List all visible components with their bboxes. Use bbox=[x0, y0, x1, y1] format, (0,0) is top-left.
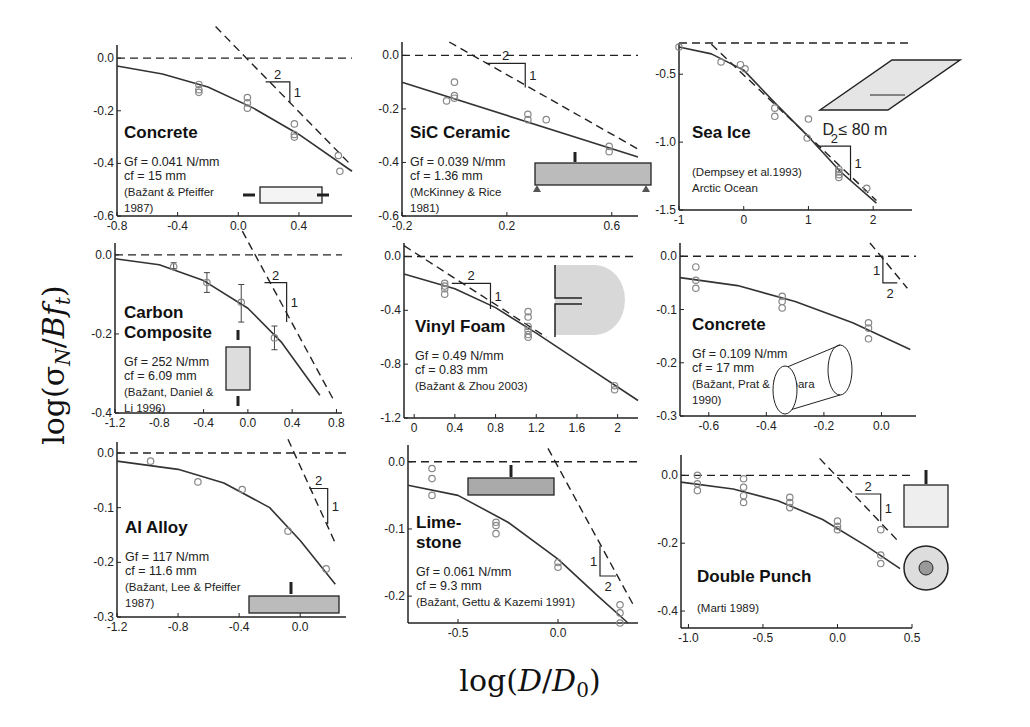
source-citation: (Bažant, Lee & Pfeiffer bbox=[125, 581, 241, 593]
data-point bbox=[693, 285, 699, 291]
material-title: SiC Ceramic bbox=[410, 123, 510, 142]
material-title: Sea Ice bbox=[692, 123, 751, 142]
x-tick-label: -0.4 bbox=[756, 419, 777, 433]
x-tick-label: 0.5 bbox=[904, 631, 921, 645]
source-citation: (Dempsey et al.1993) bbox=[692, 166, 802, 178]
y-tick-label: 0.0 bbox=[97, 446, 114, 460]
x-tick-label: 0 bbox=[411, 421, 418, 435]
slope-triangle bbox=[855, 494, 880, 521]
y-tick-label: -0.4 bbox=[378, 155, 399, 169]
y-tick-label: -0.6 bbox=[378, 209, 399, 223]
y-tick-label: 0.0 bbox=[660, 249, 677, 263]
y-tick-label: -0.5 bbox=[655, 67, 676, 81]
x-tick-label: -0.4 bbox=[193, 416, 214, 430]
source-citation: 1987) bbox=[125, 597, 155, 609]
y-tick-label: 0.0 bbox=[95, 248, 112, 262]
material-title: Double Punch bbox=[697, 567, 811, 586]
svg-text:1: 1 bbox=[885, 501, 892, 516]
svg-text:2: 2 bbox=[272, 268, 279, 283]
x-tick-label: 0.0 bbox=[230, 219, 247, 233]
x-axis-label: log(D/D0) bbox=[420, 655, 640, 705]
svg-text:2: 2 bbox=[502, 48, 509, 63]
data-point bbox=[291, 121, 297, 127]
y-tick-label: -0.3 bbox=[93, 610, 114, 624]
material-parameter: cf = 17 mm bbox=[692, 361, 754, 375]
data-point bbox=[195, 479, 201, 485]
slope-triangle bbox=[486, 63, 525, 87]
svg-text:1: 1 bbox=[494, 289, 501, 304]
size-effect-curve bbox=[680, 278, 910, 350]
source-citation: 1987) bbox=[124, 202, 154, 214]
svg-text:2: 2 bbox=[274, 67, 281, 82]
size-annotation: D ≤ 80 m bbox=[823, 121, 888, 138]
source-citation: (Bažant, Gettu & Kazemi 1991) bbox=[416, 596, 575, 608]
x-tick-label: -0.4 bbox=[167, 219, 188, 233]
data-point bbox=[443, 98, 449, 104]
material-parameter: cf = 9.3 mm bbox=[416, 579, 482, 593]
material-title: stone bbox=[416, 533, 461, 552]
source-citation: (Bažant, Daniel & bbox=[124, 386, 214, 398]
data-point bbox=[285, 528, 291, 534]
data-point bbox=[239, 486, 245, 492]
x-tick-label: 2 bbox=[870, 213, 877, 227]
material-title: Al Alloy bbox=[125, 518, 188, 537]
material-parameter: cf = 11.6 mm bbox=[125, 564, 197, 578]
x-tick-label: 0.6 bbox=[603, 219, 620, 233]
x-tick-label: -0.5 bbox=[753, 631, 774, 645]
svg-text:1: 1 bbox=[873, 263, 880, 278]
data-point bbox=[740, 493, 746, 499]
y-axis-label-text: log(σN/Bft) bbox=[36, 285, 75, 445]
y-tick-label: -0.2 bbox=[656, 356, 677, 370]
x-tick-label: 0.0 bbox=[829, 631, 846, 645]
data-point bbox=[335, 152, 341, 158]
data-point bbox=[147, 458, 153, 464]
data-point bbox=[694, 487, 700, 493]
data-point bbox=[693, 264, 699, 270]
y-tick-label: 0.0 bbox=[661, 468, 678, 482]
data-point bbox=[611, 387, 617, 393]
y-tick-label: -0.4 bbox=[91, 406, 112, 420]
x-axis-label-text: log(D/D0) bbox=[459, 663, 600, 702]
data-point bbox=[543, 116, 549, 122]
panel-legend: SiC CeramicGf = 0.039 N/mmcf = 1.36 mm(M… bbox=[410, 123, 510, 214]
y-tick-label: -0.2 bbox=[657, 536, 678, 550]
y-tick-label: -0.4 bbox=[657, 604, 678, 618]
data-point bbox=[878, 560, 884, 566]
data-point bbox=[429, 475, 435, 481]
x-tick-label: 1.2 bbox=[528, 421, 545, 435]
data-point bbox=[740, 484, 746, 490]
material-parameter: cf = 6.09 mm bbox=[124, 369, 197, 383]
material-title: Lime- bbox=[416, 513, 461, 532]
x-tick-label: -0.6 bbox=[698, 419, 719, 433]
svg-text:2: 2 bbox=[864, 479, 871, 494]
material-parameter: Gf = 0.041 N/mm bbox=[124, 155, 220, 169]
material-parameter: Gf = 0.109 N/mm bbox=[692, 347, 788, 361]
svg-text:1: 1 bbox=[529, 68, 536, 83]
panel-legend: ConcreteGf = 0.041 N/mmcf = 15 mm(Bažant… bbox=[124, 123, 220, 214]
y-tick-label: -0.4 bbox=[380, 303, 401, 317]
svg-text:2: 2 bbox=[468, 268, 475, 283]
material-title: Vinyl Foam bbox=[415, 317, 505, 336]
data-point bbox=[617, 602, 623, 608]
y-tick-label: 0.0 bbox=[388, 455, 405, 469]
y-tick-label: -0.1 bbox=[384, 522, 405, 536]
size-effect-curve bbox=[681, 482, 900, 569]
x-tick-label: -0.4 bbox=[229, 620, 250, 634]
slope-triangle bbox=[266, 82, 290, 103]
panel-legend: CarbonCompositeGf = 252 N/mmcf = 6.09 mm… bbox=[124, 303, 214, 414]
data-point bbox=[878, 526, 884, 532]
x-tick-label: 0.8 bbox=[328, 416, 345, 430]
material-title: Carbon bbox=[124, 303, 184, 322]
data-point bbox=[451, 79, 457, 85]
x-tick-label: 0.4 bbox=[447, 421, 464, 435]
svg-text:1: 1 bbox=[332, 499, 339, 514]
panel-legend: Vinyl FoamGf = 0.49 N/mmcf = 0.83 mm(Baž… bbox=[415, 317, 528, 392]
data-point bbox=[555, 564, 561, 570]
data-point bbox=[740, 499, 746, 505]
y-tick-label: -0.1 bbox=[656, 303, 677, 317]
y-tick-label: 0.0 bbox=[97, 51, 114, 65]
lefm-asymptote bbox=[548, 448, 634, 606]
data-point bbox=[772, 113, 778, 119]
y-tick-label: -0.8 bbox=[380, 357, 401, 371]
x-tick-label: 1.6 bbox=[569, 421, 586, 435]
